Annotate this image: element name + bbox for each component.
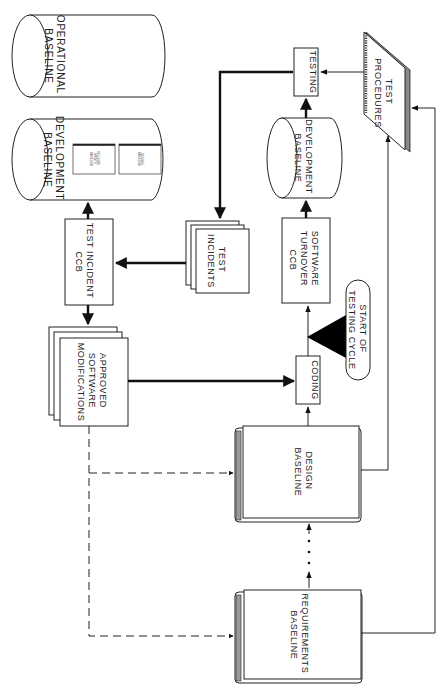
test-incidents-stack: TEST INCIDENTS	[186, 221, 249, 293]
test-procedures-label-1: TEST	[384, 79, 394, 104]
dev-baseline-top-label-1: DEVELOPMENT	[54, 116, 65, 200]
turnover-ccb-label-3: CCB	[288, 250, 298, 271]
development-baseline-top-cylinder: DEVELOPMENT BASELINE REQUIRE- MENTS BASE…	[12, 116, 163, 204]
approved-software-modifications-stack: APPROVED SOFTWARE MODIFICATIONS	[49, 327, 128, 426]
test-incident-ccb-label-2: CCB	[74, 252, 84, 273]
software-turnover-ccb-box: SOFTWARE TURNOVER CCB	[282, 218, 330, 303]
requirements-baseline-book: REQUIREMENTS BASELINE	[235, 590, 362, 683]
turnover-ccb-label-1: SOFTWARE	[310, 231, 320, 286]
approved-mods-label-3: MODIFICATIONS	[76, 343, 86, 422]
requirements-baseline-label-1: REQUIREMENTS	[300, 594, 310, 674]
test-incidents-label-2: INCIDENTS	[206, 234, 216, 288]
development-baseline-mid-cylinder: DEVELOPMENT BASELINE	[267, 118, 342, 198]
operational-baseline-label-1: OPERATIONAL	[55, 15, 66, 94]
inner-requirements-baseline-book: REQUIRE- MENTS BASELINE	[73, 144, 115, 174]
approved-mods-label-1: APPROVED	[98, 353, 108, 408]
arrow-requirements-to-procedures	[361, 108, 435, 633]
design-baseline-book: DESIGN BASELINE	[235, 426, 361, 522]
testing-label: TESTING	[308, 50, 318, 93]
dashed-arrow-to-requirements	[89, 426, 233, 636]
coding-box: CODING	[296, 356, 320, 404]
design-baseline-label-1: DESIGN	[304, 451, 314, 489]
testing-box: TESTING	[294, 48, 318, 96]
svg-text:APPROVED SOFTWARE: APPROVED SOFTWARE MODIFICATIONS	[76, 343, 108, 422]
operational-baseline-cylinder: OPERATIONAL BASELINE	[12, 15, 165, 97]
requirements-baseline-label-2: BASELINE	[289, 611, 299, 660]
turnover-ccb-label-2: TURNOVER	[299, 231, 309, 286]
inner-design-label-2: BASELINE	[137, 152, 141, 167]
svg-text:DESIGN BASELINE: DESIGN BASELINE	[137, 152, 145, 167]
test-incident-ccb-box: TEST INCIDENT CCB	[65, 219, 113, 305]
baseline-testing-cycle-diagram: OPERATIONAL BASELINE DEVELOPMENT BASELIN…	[0, 0, 447, 690]
approved-mods-label-2: SOFTWARE	[87, 353, 97, 408]
test-incident-ccb-label-1: TEST INCIDENT	[85, 223, 95, 299]
operational-baseline-label-2: BASELINE	[43, 28, 54, 83]
start-of-testing-cycle-pill: START OF TESTING CYCLE	[346, 280, 370, 380]
test-incidents-label-1: TEST	[217, 247, 227, 272]
dev-baseline-mid-label-1: DEVELOPMENT	[304, 119, 314, 194]
coding-label: CODING	[310, 360, 320, 400]
svg-text:REQUIRE- MENTS: REQUIRE- MENTS BASELINE	[89, 151, 100, 167]
svg-text:DESIGN BASELINE: DESIGN BASELINE	[293, 448, 314, 497]
dev-baseline-top-label-2: BASELINE	[42, 132, 53, 187]
design-baseline-label-2: BASELINE	[293, 448, 303, 497]
inner-design-baseline-book: DESIGN BASELINE	[119, 144, 161, 174]
start-testing-label-2: TESTING CYCLE	[347, 290, 357, 369]
test-procedures-notebook: TEST PROCEDURES	[364, 32, 410, 152]
test-procedures-label-2: PROCEDURES	[373, 58, 383, 128]
dotted-link-req-to-design	[308, 524, 311, 588]
dev-baseline-mid-label-2: BASELINE	[293, 134, 303, 183]
start-testing-label-1: START OF	[358, 304, 368, 352]
inner-req-label-3: BASELINE	[89, 152, 93, 167]
